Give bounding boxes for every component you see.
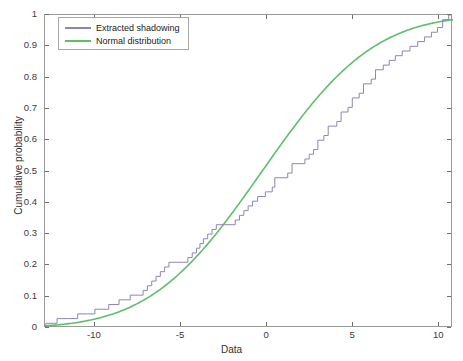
y-tick-mark — [45, 171, 49, 172]
y-tick-label: 0.9 — [5, 40, 37, 50]
y-tick-mark-right — [447, 202, 451, 203]
y-tick-mark-right — [447, 327, 451, 328]
series-normal-distribution-line — [45, 20, 453, 326]
x-tick-label: -10 — [76, 330, 112, 340]
y-tick-mark-right — [447, 296, 451, 297]
legend-label-normal-distribution: Normal distribution — [96, 36, 171, 46]
y-tick-label: 1 — [5, 9, 37, 19]
legend-item-extracted-shadowing: Extracted shadowing — [63, 21, 184, 34]
x-tick-mark-top — [266, 15, 267, 19]
y-tick-mark — [45, 233, 49, 234]
series-extracted-shadowing-step — [46, 15, 452, 328]
y-tick-mark — [45, 264, 49, 265]
y-tick-mark — [45, 14, 49, 15]
legend-swatch-normal-distribution — [65, 40, 91, 42]
y-tick-mark — [45, 77, 49, 78]
legend-label-extracted-shadowing: Extracted shadowing — [96, 23, 180, 33]
y-tick-mark-right — [447, 233, 451, 234]
y-tick-mark — [45, 296, 49, 297]
x-tick-mark — [266, 322, 267, 326]
x-tick-mark — [438, 322, 439, 326]
y-tick-label: 0 — [5, 322, 37, 332]
y-tick-mark-right — [447, 77, 451, 78]
x-tick-label: -5 — [162, 330, 198, 340]
x-tick-label: 0 — [248, 330, 284, 340]
y-tick-mark-right — [447, 14, 451, 15]
y-tick-mark-right — [447, 264, 451, 265]
x-axis-label: Data — [0, 344, 463, 355]
legend: Extracted shadowing Normal distribution — [58, 17, 189, 50]
x-tick-label: 5 — [334, 330, 370, 340]
y-tick-label: 0.8 — [5, 72, 37, 82]
x-tick-mark-top — [438, 15, 439, 19]
x-tick-label: 10 — [420, 330, 456, 340]
x-tick-mark — [94, 322, 95, 326]
y-tick-mark-right — [447, 139, 451, 140]
y-tick-mark-right — [447, 171, 451, 172]
y-tick-mark — [45, 108, 49, 109]
legend-item-normal-distribution: Normal distribution — [63, 34, 184, 47]
y-axis-label: Cumulative probability — [13, 86, 24, 246]
y-tick-mark-right — [447, 45, 451, 46]
plot-area — [44, 14, 452, 327]
figure-canvas: 00.10.20.30.40.50.60.70.80.91 -10-50510 … — [0, 0, 463, 361]
y-tick-mark — [45, 327, 49, 328]
x-tick-mark — [352, 322, 353, 326]
legend-swatch-extracted-shadowing — [65, 27, 91, 29]
y-tick-mark — [45, 45, 49, 46]
y-tick-mark — [45, 202, 49, 203]
plot-svg — [45, 15, 453, 328]
x-tick-mark — [180, 322, 181, 326]
y-tick-label: 0.2 — [5, 259, 37, 269]
x-tick-mark-top — [352, 15, 353, 19]
y-tick-mark — [45, 139, 49, 140]
y-tick-mark-right — [447, 108, 451, 109]
y-tick-label: 0.1 — [5, 291, 37, 301]
